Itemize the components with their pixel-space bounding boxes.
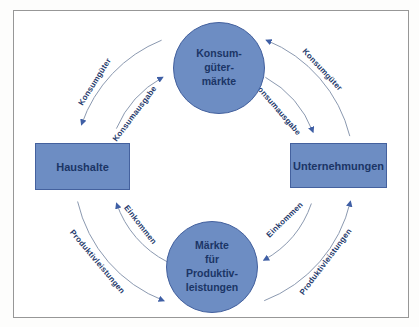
- flow-label-konsumgueter-left: Konsumgüter: [76, 56, 112, 107]
- node-unternehmungen-label: Unternehmungen: [293, 160, 384, 172]
- node-haushalte: Haushalte: [35, 143, 130, 190]
- node-produktiv-maerkte: Märkte für Produktiv- leistungen: [166, 221, 258, 313]
- node-unternehmungen: Unternehmungen: [290, 143, 387, 188]
- flow-label-produktivleistungen-right: Produktivleistungen: [298, 227, 354, 297]
- flow-label-produktivleistungen-left: Produktivleistungen: [68, 228, 127, 296]
- node-haushalte-label: Haushalte: [56, 161, 109, 173]
- node-konsumgueter-maerkte: Konsum- güter- märkte: [173, 22, 265, 114]
- node-konsumgueter-maerkte-label: Konsum- güter- märkte: [196, 47, 242, 89]
- node-produktiv-maerkte-label: Märkte für Produktiv- leistungen: [186, 239, 239, 294]
- flow-label-einkommen-right: Einkommen: [265, 200, 305, 239]
- flow-label-konsumausgabe-left: Konsumausgabe: [111, 84, 159, 143]
- flow-label-konsumgueter-right: Konsumgüter: [301, 47, 345, 93]
- flow-label-einkommen-left: Einkommen: [122, 203, 158, 246]
